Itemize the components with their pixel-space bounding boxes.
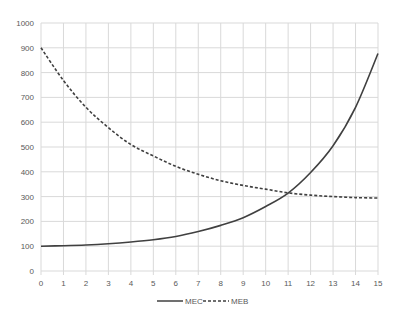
- grid-lines: [41, 23, 378, 275]
- y-tick-label: 800: [21, 69, 35, 78]
- x-tick-label: 9: [241, 279, 246, 288]
- y-tick-label: 900: [21, 44, 35, 53]
- x-tick-label: 4: [129, 279, 134, 288]
- x-tick-label: 1: [61, 279, 66, 288]
- legend-mec-label: MEC: [185, 297, 203, 306]
- legend-meb-label: MEB: [231, 297, 248, 306]
- y-tick-label: 300: [21, 193, 35, 202]
- y-tick-label: 0: [30, 267, 35, 276]
- x-tick-label: 10: [261, 279, 270, 288]
- x-tick-label: 13: [329, 279, 338, 288]
- x-tick-label: 5: [151, 279, 156, 288]
- y-tick-label: 600: [21, 118, 35, 127]
- y-tick-label: 500: [21, 143, 35, 152]
- x-tick-label: 7: [196, 279, 201, 288]
- y-tick-label: 700: [21, 93, 35, 102]
- x-tick-label: 8: [219, 279, 224, 288]
- line-chart: 01002003004005006007008009001000 0123456…: [0, 0, 402, 322]
- x-tick-label: 0: [39, 279, 44, 288]
- series-line-meb: [41, 48, 378, 198]
- x-tick-label: 12: [306, 279, 315, 288]
- y-axis-ticks: 01002003004005006007008009001000: [16, 19, 34, 276]
- x-tick-label: 6: [174, 279, 179, 288]
- x-tick-label: 15: [374, 279, 383, 288]
- x-tick-label: 14: [351, 279, 360, 288]
- x-axis-ticks: 0123456789101112131415: [39, 279, 383, 288]
- x-tick-label: 11: [284, 279, 293, 288]
- series-line-mec: [41, 54, 378, 247]
- legend: MEC MEB: [157, 297, 248, 306]
- y-tick-label: 400: [21, 168, 35, 177]
- x-tick-label: 3: [106, 279, 111, 288]
- y-tick-label: 1000: [16, 19, 34, 28]
- y-tick-label: 200: [21, 217, 35, 226]
- x-tick-label: 2: [84, 279, 89, 288]
- y-tick-label: 100: [21, 242, 35, 251]
